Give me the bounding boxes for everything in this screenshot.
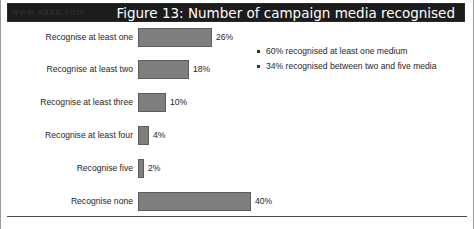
list-item: 34% recognised between two and five medi…	[256, 60, 470, 72]
bar-row: Recognise at least two 18%	[0, 60, 300, 79]
bar-row: Recognise at least three 10%	[0, 93, 300, 112]
bullet-icon	[257, 50, 260, 53]
bar-category-label: Recognise at least four	[0, 126, 133, 145]
title-watermark-text: www.aaaa.com	[12, 7, 85, 18]
bar-shape	[138, 93, 166, 112]
callout-item-text: 60% recognised at least one medium	[266, 46, 407, 56]
bar-value-label: 10%	[170, 93, 187, 112]
figure-container: www.aaaa.com Figure 13: Number of campai…	[0, 0, 474, 229]
bar-category-label: Recognise none	[0, 192, 133, 211]
bar-shape	[138, 126, 149, 145]
bar-value-label: 18%	[193, 60, 210, 79]
bar-shape	[138, 192, 251, 211]
bar-category-label: Recognise at least three	[0, 93, 133, 112]
bar-row: Recognise five 2%	[0, 159, 300, 178]
bar-value-label: 4%	[153, 126, 165, 145]
bar-category-label: Recognise at least two	[0, 60, 133, 79]
bar-value-label: 40%	[255, 192, 272, 211]
bullet-icon	[257, 65, 260, 68]
bar-row: Recognise at least four 4%	[0, 126, 300, 145]
list-item: 60% recognised at least one medium	[256, 45, 470, 57]
bar-value-label: 26%	[216, 28, 233, 47]
bar-shape	[138, 60, 189, 79]
bar-shape	[138, 28, 212, 47]
bar-row: Recognise none 40%	[0, 192, 300, 211]
bar-shape	[138, 159, 144, 178]
callout-item-text: 34% recognised between two and five medi…	[266, 61, 437, 71]
bar-value-label: 2%	[148, 159, 160, 178]
figure-bottom-rule	[7, 216, 467, 217]
figure-title-bar: www.aaaa.com Figure 13: Number of campai…	[7, 3, 465, 22]
callout-annotation-list: 60% recognised at least one medium 34% r…	[256, 45, 470, 75]
bar-category-label: Recognise five	[0, 159, 133, 178]
page-title: Figure 13: Number of campaign media reco…	[116, 5, 455, 22]
bar-category-label: Recognise at least one	[0, 28, 133, 47]
bar-row: Recognise at least one 26%	[0, 28, 300, 47]
